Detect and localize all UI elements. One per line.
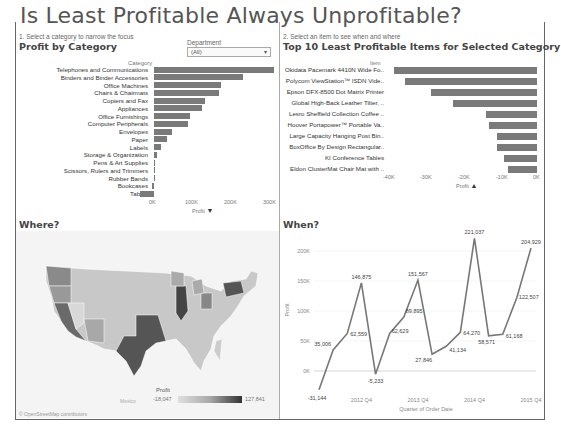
category-bar[interactable] (154, 74, 243, 80)
category-bar[interactable] (154, 105, 202, 111)
sort-icon[interactable]: ▼ (206, 207, 213, 214)
category-label[interactable]: Pens & Art Supplies (93, 159, 148, 166)
line-chart[interactable]: 200K150K100K50K0KProfit2012 Q42013 Q4201… (281, 230, 543, 418)
category-bar[interactable] (154, 82, 221, 88)
data-label: 64,270 (463, 330, 480, 336)
item-label[interactable]: KI Conference Tables (325, 154, 384, 161)
item-bar[interactable] (405, 78, 537, 85)
right-frame-border (544, 22, 545, 420)
x-axis-label: Quarter of Order Date (399, 406, 453, 412)
category-bar[interactable] (154, 175, 155, 181)
category-label[interactable]: Appliances (118, 105, 148, 112)
category-bar[interactable] (154, 113, 190, 119)
state-oh[interactable] (201, 293, 212, 309)
category-label[interactable]: Envelopes (119, 128, 148, 135)
category-bar[interactable] (154, 129, 172, 135)
mexico-label: Mexico (120, 398, 136, 404)
item-label[interactable]: Epson DFX-8500 Dot Matrix Printer (287, 88, 384, 95)
item-bar[interactable] (504, 155, 537, 162)
data-label: 221,037 (465, 230, 485, 235)
item-bar[interactable] (508, 166, 537, 173)
top10-tick: -10K (496, 174, 508, 180)
top10-axis-label: Profit ▲ (456, 182, 477, 189)
category-label[interactable]: Binders and Binder Accessories (61, 74, 148, 81)
data-label: 58,571 (478, 339, 495, 345)
category-label-list: Telephones and CommunicationsBinders and… (16, 66, 148, 196)
category-bar[interactable] (154, 67, 274, 73)
dashboard-title: Is Least Profitable Always Unprofitable? (20, 3, 462, 28)
data-label: 35,006 (314, 341, 331, 347)
item-bar[interactable] (453, 100, 537, 107)
top10-tick: 0K (533, 174, 540, 180)
category-label[interactable]: Computer Peripherals (88, 120, 148, 127)
map-legend-max: 127,841 (245, 396, 265, 402)
data-label: 89,895 (406, 308, 423, 314)
y-tick: 150K (297, 278, 310, 284)
category-axis-label: Profit ▼ (192, 207, 213, 214)
state-mi[interactable] (192, 279, 204, 295)
state-wa[interactable] (46, 266, 71, 286)
category-bar[interactable] (154, 90, 219, 96)
category-bar[interactable] (154, 167, 155, 173)
category-bar[interactable] (154, 136, 167, 142)
item-label[interactable]: Okidata Pacemark 4410N Wide Fo.. (285, 66, 384, 73)
category-bar[interactable] (154, 98, 205, 104)
department-filter-label: Department (187, 39, 221, 46)
map-legend-gradient (178, 396, 242, 403)
data-label: 41,134 (449, 347, 466, 353)
item-bar[interactable] (431, 89, 537, 96)
category-label[interactable]: Office Furnishings (98, 113, 148, 120)
item-bar[interactable] (394, 67, 537, 74)
when-heading: When? (283, 219, 319, 230)
item-bar[interactable] (489, 122, 537, 129)
y-tick: 0K (303, 368, 310, 374)
category-bar[interactable] (140, 191, 154, 197)
department-dropdown[interactable]: (All) ▾ (187, 47, 271, 57)
map-legend-title: Profit (156, 387, 170, 393)
map-attribution[interactable]: © OpenStreetMap contributors (19, 411, 87, 417)
item-bar[interactable] (497, 133, 537, 140)
data-label: 62,629 (392, 328, 409, 334)
item-label[interactable]: Polycom ViewStation™ ISDN Vide.. (286, 77, 384, 84)
item-bar[interactable] (497, 144, 537, 151)
category-label[interactable]: Rubber Bands (108, 175, 148, 182)
category-bar[interactable] (154, 144, 161, 150)
category-label[interactable]: Labels (130, 144, 148, 151)
item-label[interactable]: Global High-Back Leather Tilter, .. (291, 99, 384, 106)
category-bar[interactable] (154, 152, 157, 158)
category-label[interactable]: Paper (131, 136, 148, 143)
category-bar[interactable] (154, 160, 155, 166)
state-wi[interactable] (171, 271, 184, 286)
category-bar[interactable] (154, 121, 188, 127)
data-label: 122,507 (519, 294, 539, 300)
category-label[interactable]: Scissors, Rulers and Trimmers (64, 167, 148, 174)
data-label: 146,875 (351, 274, 371, 280)
category-bar[interactable] (152, 183, 154, 189)
top10-heading: Top 10 Least Profitable Items for Select… (283, 41, 560, 52)
item-label[interactable]: Large Capacity Hanging Post Bin.. (289, 132, 384, 139)
category-label[interactable]: Telephones and Communications (57, 66, 149, 73)
category-label[interactable]: Bookcases (118, 182, 148, 189)
category-label[interactable]: Chairs & Chairmats (94, 89, 148, 96)
state-fl[interactable] (214, 339, 222, 361)
profit-line[interactable] (319, 238, 531, 389)
x-tick: 2013 Q4 (407, 397, 428, 403)
us-map[interactable] (16, 231, 279, 418)
item-label[interactable]: BoxOffice By Design Rectangular.. (289, 143, 384, 150)
data-label: 27,846 (415, 357, 432, 363)
category-label[interactable]: Storage & Organization (84, 151, 148, 158)
category-label[interactable]: Office Machines (104, 82, 148, 89)
x-tick: 2012 Q4 (351, 397, 372, 403)
y-tick: 200K (297, 248, 310, 254)
category-label[interactable]: Copiers and Fax (103, 97, 148, 104)
item-label[interactable]: Lesro Sheffield Collection Coffee .. (289, 110, 384, 117)
map-legend-min: -18,047 (153, 396, 172, 402)
sort-icon[interactable]: ▲ (470, 182, 477, 189)
item-label[interactable]: Hoover Portapower™ Portable Va.. (287, 121, 384, 128)
data-label: -5,233 (368, 378, 384, 384)
chevron-down-icon: ▾ (264, 48, 267, 57)
item-bar[interactable] (486, 111, 537, 118)
y-axis-label: Profit (284, 303, 290, 316)
item-label[interactable]: Eldon ClusterMat Chair Mat with .. (290, 165, 384, 172)
category-tick: 100K (185, 199, 198, 205)
